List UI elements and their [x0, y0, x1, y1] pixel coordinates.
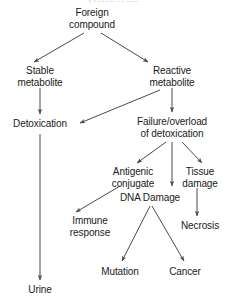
node-antigenic-conjugate: Antigenic conjugate	[112, 166, 154, 189]
edge-failure-to-tissue	[182, 142, 202, 163]
node-detoxication: Detoxication	[13, 118, 67, 130]
node-stable-metabolite: Stable metabolite	[17, 65, 62, 88]
node-foreign-compound: Foreign compound	[69, 7, 115, 30]
edge-dna-to-mutation	[122, 206, 150, 261]
node-immune-response: Immune response	[70, 215, 110, 238]
node-necrosis: Necrosis	[181, 220, 219, 232]
edge-antigenic-to-immune	[76, 186, 120, 212]
flowchart-edges	[0, 0, 227, 306]
node-mutation: Mutation	[101, 266, 139, 278]
clipped-title-text: Metabolism	[88, 0, 139, 2]
flowchart-diagram: Metabolism Foreign compoundStable metabo…	[0, 0, 227, 306]
node-dna-damage: DNA Damage	[120, 192, 180, 204]
edge-foreign-to-reactive	[101, 33, 148, 62]
node-tissue-damage: Tissue damage	[182, 166, 218, 189]
edge-failure-to-antigenic	[137, 142, 166, 163]
node-urine: Urine	[28, 284, 51, 296]
node-failure-overload: Failure/overload of detoxication	[137, 116, 207, 139]
node-reactive-metabolite: Reactive metabolite	[149, 65, 194, 88]
node-cancer: Cancer	[169, 266, 201, 278]
edge-foreign-to-stable	[34, 33, 84, 62]
edge-dna-to-cancer	[152, 206, 184, 261]
